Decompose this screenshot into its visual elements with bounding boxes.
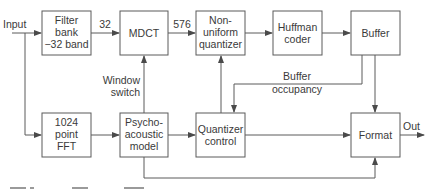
filter-bank-label-3: −32 band: [44, 38, 88, 50]
block-mdct: MDCT: [120, 11, 168, 55]
qcontrol-label-1: Quantizer: [198, 123, 244, 135]
input-label: Input: [3, 18, 26, 30]
input-to-fft-arrow: [25, 33, 41, 135]
psychoacoustic-label-3: model: [130, 140, 159, 152]
window-switch-label-2: switch: [111, 86, 140, 98]
huffman-label-2: coder: [284, 33, 311, 45]
qcontrol-label-2: control: [205, 135, 237, 147]
huffman-label-1: Huffman: [278, 21, 318, 33]
buffer-occupancy-label-2: occupancy: [272, 83, 323, 95]
block-psychoacoustic-model: Psycho- acoustic model: [120, 113, 168, 157]
buffer-occupancy-label-1: Buffer: [283, 70, 311, 82]
block-filter-bank: Filter bank −32 band: [42, 11, 91, 55]
psychoacoustic-to-format-arrow: [144, 157, 375, 178]
quantizer-label-2: uniform: [203, 26, 238, 38]
cropped-caption-remnant: [10, 187, 144, 189]
quantizer-label-3: quantizer: [199, 38, 243, 50]
mdct-label: MDCT: [129, 27, 160, 39]
fft-label-3: FFT: [57, 140, 77, 152]
format-label: Format: [359, 129, 392, 141]
block-buffer: Buffer: [351, 11, 400, 55]
block-huffman-coder: Huffman coder: [273, 11, 322, 55]
block-nonuniform-quantizer: Non- uniform quantizer: [196, 11, 245, 55]
output-label: Out: [403, 120, 420, 132]
quantizer-label-1: Non-: [209, 14, 232, 26]
block-format: Format: [351, 113, 400, 157]
bands-32-label: 32: [99, 18, 111, 30]
buffer-label: Buffer: [362, 27, 390, 39]
psychoacoustic-label-1: Psycho-: [125, 116, 163, 128]
fft-label-1: 1024: [55, 116, 79, 128]
window-switch-label-1: Window: [103, 74, 141, 86]
filter-bank-label-2: bank: [55, 26, 79, 38]
filter-bank-label-1: Filter: [55, 14, 79, 26]
coeffs-576-label: 576: [173, 18, 191, 30]
mp3-encoder-diagram: Filter bank −32 band MDCT Non- uniform q…: [0, 0, 437, 189]
block-quantizer-control: Quantizer control: [196, 113, 245, 157]
block-fft: 1024 point FFT: [42, 113, 91, 157]
psychoacoustic-label-2: acoustic: [125, 128, 164, 140]
fft-label-2: point: [55, 128, 78, 140]
